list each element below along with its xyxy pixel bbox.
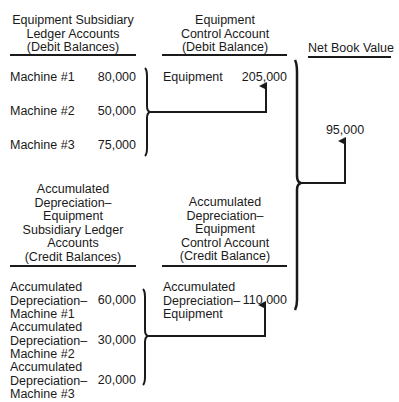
label-line: Depreciation– — [10, 295, 87, 309]
label-line: Accumulated — [10, 281, 87, 295]
header-underline — [10, 265, 136, 267]
header-line: Subsidiary Ledger — [5, 224, 141, 238]
equipment-control-header: Equipment Control Account (Debit Balance… — [160, 14, 290, 55]
header-line: Control Account — [160, 237, 290, 251]
control-value: 110,000 — [230, 294, 287, 308]
header-line: Equipment — [160, 14, 290, 28]
label-line: Accumulated — [10, 361, 87, 375]
header-line: Depreciation– — [160, 210, 290, 224]
header-line: Accounts — [5, 237, 141, 251]
row-label: Machine #3 — [10, 139, 75, 153]
label-line: Machine #3 — [10, 388, 87, 402]
label-line: Depreciation– — [163, 295, 240, 309]
header-underline — [308, 56, 391, 58]
row-value: 20,000 — [80, 374, 136, 388]
label-line: Accumulated — [163, 281, 240, 295]
label-line: Depreciation– — [10, 375, 87, 389]
label-line: Accumulated — [10, 321, 87, 335]
accum-dep-subsidiary-header: Accumulated Depreciation– Equipment Subs… — [5, 183, 141, 264]
row-label: Accumulated Depreciation– Machine #1 — [10, 281, 87, 322]
header-underline — [162, 265, 287, 267]
header-line: (Debit Balances) — [5, 41, 141, 55]
header-line: Accumulated — [5, 183, 141, 197]
header-line: Equipment — [160, 223, 290, 237]
control-value: 205,000 — [230, 71, 287, 85]
row-value: 75,000 — [80, 139, 136, 153]
equipment-subsidiary-header: Equipment Subsidiary Ledger Accounts (De… — [5, 14, 141, 55]
row-label: Accumulated Depreciation– Machine #2 — [10, 321, 87, 362]
control-label: Equipment — [163, 71, 223, 85]
header-line: Equipment — [5, 210, 141, 224]
control-label: Accumulated Depreciation– Equipment — [163, 281, 240, 322]
row-label: Accumulated Depreciation– Machine #3 — [10, 361, 87, 402]
header-underline — [10, 54, 136, 56]
header-line: Ledger Accounts — [5, 28, 141, 42]
header-line: Control Account — [160, 28, 290, 42]
header-line: Accumulated — [160, 196, 290, 210]
header-underline — [162, 54, 287, 56]
row-value: 50,000 — [80, 105, 136, 119]
header-line: (Credit Balance) — [160, 250, 290, 264]
header-line: Equipment Subsidiary — [5, 14, 141, 28]
accum-dep-control-header: Accumulated Depreciation– Equipment Cont… — [160, 196, 290, 264]
header-line: (Debit Balance) — [160, 41, 290, 55]
row-label: Machine #1 — [10, 71, 75, 85]
row-value: 60,000 — [80, 294, 136, 308]
header-line: Depreciation– — [5, 197, 141, 211]
header-line: (Credit Balances) — [5, 251, 141, 265]
label-line: Depreciation– — [10, 335, 87, 349]
label-line: Equipment — [163, 308, 240, 322]
row-label: Machine #2 — [10, 105, 75, 119]
row-value: 30,000 — [80, 334, 136, 348]
brace-net-book-value — [295, 60, 345, 310]
row-value: 80,000 — [80, 71, 136, 85]
net-book-value-header: Net Book Value — [308, 42, 394, 56]
net-book-value-amount: 95,000 — [320, 124, 370, 138]
